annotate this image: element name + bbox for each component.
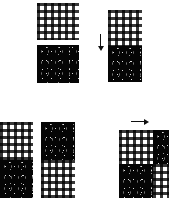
panel-top-left: [37, 3, 79, 83]
tile-left-dots-lower: [0, 160, 33, 198]
tile-gingham-top: [108, 10, 142, 46]
tile-dots-bottom: [108, 46, 142, 82]
down-arrow-icon: [98, 34, 104, 52]
tile-right-dots-upper: [41, 122, 75, 160]
right-arrow-icon: [131, 119, 150, 125]
panel-top-right: [108, 10, 142, 82]
tile-quad-bottom-right: [153, 164, 169, 198]
tile-gingham-upper: [37, 3, 79, 40]
panel-bottom-right: [119, 130, 169, 198]
tile-quad-bottom-left: [119, 164, 153, 198]
tile-quad-top-left: [119, 130, 153, 164]
panel-bottom-left: [0, 122, 78, 198]
tile-left-gingham-upper: [0, 122, 33, 160]
tile-right-gingham-lower: [41, 160, 75, 198]
tile-quad-top-right: [153, 130, 169, 164]
tile-dots-lower: [37, 45, 79, 83]
texture-composition-figure: [0, 0, 169, 202]
